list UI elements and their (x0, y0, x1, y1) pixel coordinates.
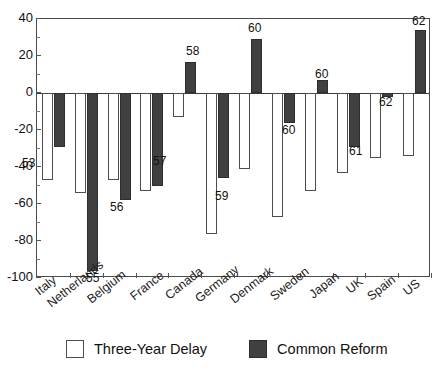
figure-number-label: 60 (282, 124, 295, 136)
legend-label: Three-Year Delay (94, 342, 207, 357)
figure-number-label: 55 (86, 272, 99, 284)
y-minor-tick-mark (36, 37, 40, 38)
figure-number-label: 57 (153, 155, 166, 167)
figure-number-label: 62 (379, 96, 392, 108)
legend-item-common-reform: Common Reform (249, 340, 387, 358)
y-minor-tick-mark (36, 259, 40, 260)
chart-legend: Three-Year DelayCommon Reform (66, 340, 406, 358)
y-tick-mark (36, 129, 41, 130)
figure-number-label: 62 (412, 15, 425, 27)
figure-number-label: 53 (22, 157, 35, 169)
y-minor-tick-mark (36, 148, 40, 149)
dark-square-swatch (249, 340, 267, 358)
white-square-swatch (66, 340, 84, 358)
figure-number-label: 59 (215, 190, 228, 202)
y-tick-mark (36, 240, 41, 241)
x-axis-label-japan: Japan (307, 270, 342, 301)
x-axis-label-france: France (128, 269, 167, 303)
legend-item-three-year-delay: Three-Year Delay (66, 340, 207, 358)
figure-number-label: 60 (248, 22, 261, 34)
y-minor-tick-mark (36, 222, 40, 223)
x-axis-label-us: US (401, 277, 423, 298)
y-tick-mark (36, 277, 41, 278)
bar-chart: 40200-20-40-60-80-100 ItalyNetherlandsBe… (0, 0, 442, 374)
y-tick-mark (36, 203, 41, 204)
figure-number-label: 58 (186, 45, 199, 57)
y-minor-tick-mark (36, 74, 40, 75)
x-axis-labels: ItalyNetherlandsBelgiumFranceCanadaGerma… (0, 0, 442, 374)
x-axis-label-spain: Spain (365, 273, 398, 303)
y-tick-mark (36, 55, 41, 56)
figure-number-label: 61 (349, 145, 362, 157)
x-axis-label-uk: UK (344, 275, 366, 296)
figure-number-label: 60 (315, 68, 328, 80)
x-axis-label-sweden: Sweden (268, 265, 312, 303)
y-tick-mark (36, 18, 41, 19)
y-tick-mark (36, 92, 41, 93)
y-tick-mark (36, 166, 41, 167)
y-minor-tick-mark (36, 111, 40, 112)
legend-label: Common Reform (277, 342, 387, 357)
y-minor-tick-mark (36, 185, 40, 186)
figure-number-label: 56 (110, 201, 123, 213)
